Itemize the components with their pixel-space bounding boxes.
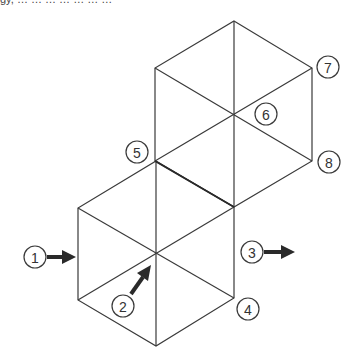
arrow-2-icon	[131, 265, 151, 294]
callout-2: 2	[112, 295, 134, 317]
callout-7-label: 7	[324, 60, 332, 76]
arrow-1-icon	[47, 250, 76, 264]
callout-3: 3	[241, 241, 263, 263]
callout-4-label: 4	[244, 302, 252, 318]
callout-7: 7	[317, 56, 339, 78]
lower-hexagon	[78, 161, 234, 346]
arrow-3-icon	[264, 245, 295, 259]
callout-5-label: 5	[133, 145, 141, 161]
hexagon-diagram: 1 2 3 4 5 6 7 8	[0, 0, 363, 362]
callout-1-label: 1	[31, 250, 39, 266]
upper-hexagon	[155, 21, 312, 207]
callout-2-label: 2	[119, 299, 127, 315]
callout-6: 6	[255, 103, 277, 125]
callout-4: 4	[237, 298, 259, 320]
shared-edge	[155, 161, 234, 207]
callout-8: 8	[318, 151, 340, 173]
callout-8-label: 8	[325, 155, 333, 171]
callout-1: 1	[24, 246, 46, 268]
callout-3-label: 3	[248, 245, 256, 261]
callout-6-label: 6	[262, 107, 270, 123]
callout-5: 5	[126, 141, 148, 163]
